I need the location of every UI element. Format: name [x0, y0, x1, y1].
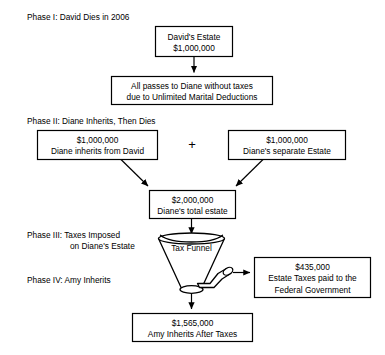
estate-tax-flowchart: Phase I: David Dies in 2006 David's Esta…: [0, 0, 385, 355]
box-total-estate-line2: Diane's total estate: [157, 206, 228, 216]
tax-funnel: Tax Funnel: [159, 233, 235, 293]
box-marital-deduction-line2: due to Unlimited Marital Deductions: [127, 92, 258, 102]
box-marital-deduction-line1: All passes to Diane without taxes: [131, 81, 253, 91]
box-inherits-from-david: $1,000,000 Diane inherits from David: [38, 131, 158, 160]
funnel-label: Tax Funnel: [171, 243, 212, 253]
phase-3-label-line1: Phase III: Taxes Imposed: [27, 230, 120, 240]
box-estate-taxes: $435,000 Estate Taxes paid to the Federa…: [255, 258, 371, 298]
phase-1-label: Phase I: David Dies in 2006: [27, 12, 130, 22]
phase-4-label: Phase IV: Amy Inherits: [27, 275, 111, 285]
box-estate-taxes-line2: Estate Taxes paid to the: [268, 273, 357, 283]
box-davids-estate-line1: David's Estate: [168, 32, 221, 42]
box-estate-taxes-line3: Federal Government: [274, 285, 351, 295]
phase-2-label: Phase II: Diane Inherits, Then Dies: [27, 116, 156, 126]
box-davids-estate-line2: $1,000,000: [173, 43, 215, 53]
diagram-canvas: Phase I: David Dies in 2006 David's Esta…: [0, 0, 385, 355]
box-total-estate: $2,000,000 Diane's total estate: [150, 191, 236, 219]
box-total-estate-line1: $2,000,000: [172, 195, 214, 205]
box-inherits-from-david-line2: Diane inherits from David: [51, 146, 145, 156]
box-amy-inherits: $1,565,000 Amy Inherits After Taxes: [133, 314, 253, 342]
phase-3-label-line2: on Diane's Estate: [70, 241, 135, 251]
box-amy-inherits-line2: Amy Inherits After Taxes: [148, 329, 237, 339]
box-davids-estate: David's Estate $1,000,000: [156, 27, 233, 57]
box-marital-deduction: All passes to Diane without taxes due to…: [112, 77, 273, 105]
box-separate-estate: $1,000,000 Diane's separate Estate: [229, 131, 346, 160]
box-separate-estate-line2: Diane's separate Estate: [243, 146, 331, 156]
box-amy-inherits-line1: $1,565,000: [172, 318, 214, 328]
arrow-separate-to-total: [236, 160, 263, 187]
plus-operator: +: [188, 137, 196, 152]
box-separate-estate-line1: $1,000,000: [266, 135, 308, 145]
arrow-inherits-to-total: [121, 160, 148, 187]
box-estate-taxes-line1: $435,000: [295, 262, 330, 272]
box-inherits-from-david-line1: $1,000,000: [77, 135, 119, 145]
